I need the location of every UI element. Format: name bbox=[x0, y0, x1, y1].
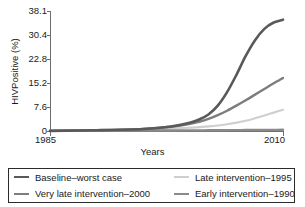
legend-item-early-intervention-1990[interactable]: Early intervention–1990 bbox=[169, 188, 294, 199]
legend-item-label: Baseline–worst case bbox=[35, 172, 122, 183]
plot-area: 0 7.6 15.2 22.8 30.4 38.1 HIVPositive (%… bbox=[0, 0, 305, 160]
y-tick-label-7.6: 7.6 bbox=[34, 102, 47, 112]
legend-item-baseline-worst-case[interactable]: Baseline–worst case bbox=[9, 172, 169, 183]
y-axis-title: HIVPositive (%) bbox=[9, 24, 20, 120]
x-tick-label-2010: 2010 bbox=[264, 134, 285, 145]
chart-legend: Baseline–worst case Late intervention–19… bbox=[8, 168, 295, 203]
chart-figure: 0 7.6 15.2 22.8 30.4 38.1 HIVPositive (%… bbox=[0, 0, 305, 207]
legend-swatch-icon bbox=[174, 176, 189, 178]
y-tick-label-30.4: 30.4 bbox=[29, 30, 48, 40]
series-group bbox=[50, 20, 283, 131]
legend-item-label: Late intervention–1995 bbox=[195, 172, 292, 183]
legend-swatch-icon bbox=[14, 193, 29, 195]
series-line-very-late-intervention-2000 bbox=[50, 78, 283, 131]
x-axis-ticks bbox=[51, 132, 284, 136]
series-line-baseline-worst-case bbox=[50, 20, 283, 131]
y-axis-ticks bbox=[47, 12, 51, 132]
legend-item-label: Very late intervention–2000 bbox=[35, 188, 150, 199]
y-tick-label-15.2: 15.2 bbox=[29, 78, 48, 88]
x-tick-label-1985: 1985 bbox=[35, 134, 56, 145]
y-tick-label-22.8: 22.8 bbox=[29, 54, 48, 64]
x-axis-title: Years bbox=[0, 146, 305, 157]
y-tick-label-38.1: 38.1 bbox=[29, 6, 48, 16]
legend-swatch-icon bbox=[174, 193, 189, 195]
legend-item-late-intervention-1995[interactable]: Late intervention–1995 bbox=[169, 172, 294, 183]
legend-item-label: Early intervention–1990 bbox=[195, 188, 294, 199]
legend-item-very-late-intervention-2000[interactable]: Very late intervention–2000 bbox=[9, 188, 169, 199]
legend-swatch-icon bbox=[14, 176, 29, 178]
